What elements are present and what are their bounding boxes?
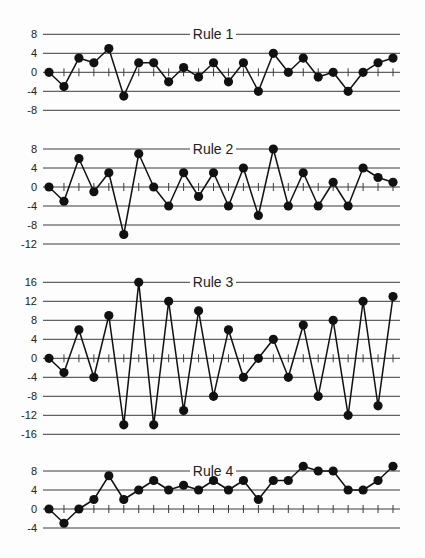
data-point bbox=[179, 63, 188, 72]
y-tick-label: -4 bbox=[27, 85, 37, 97]
y-tick-label: -8 bbox=[27, 104, 37, 116]
data-point bbox=[284, 68, 293, 77]
data-point bbox=[74, 53, 83, 62]
data-point bbox=[119, 91, 128, 100]
data-point bbox=[329, 316, 338, 325]
data-point bbox=[344, 87, 353, 96]
data-point bbox=[299, 320, 308, 329]
data-point bbox=[314, 466, 323, 475]
y-tick-label: 8 bbox=[31, 465, 37, 477]
data-point bbox=[149, 58, 158, 67]
data-point bbox=[44, 182, 53, 191]
data-point bbox=[59, 519, 68, 528]
data-point bbox=[44, 354, 53, 363]
y-tick-label: 4 bbox=[31, 162, 37, 174]
data-point bbox=[299, 53, 308, 62]
data-point bbox=[59, 197, 68, 206]
data-point bbox=[344, 411, 353, 420]
data-point bbox=[329, 178, 338, 187]
data-point bbox=[119, 495, 128, 504]
y-tick-label: 16 bbox=[25, 276, 37, 288]
data-point bbox=[314, 72, 323, 81]
data-point bbox=[314, 392, 323, 401]
data-point bbox=[134, 149, 143, 158]
data-point bbox=[89, 373, 98, 382]
data-point bbox=[164, 201, 173, 210]
y-tick-label: 8 bbox=[31, 314, 37, 326]
data-point bbox=[388, 53, 397, 62]
data-point bbox=[269, 144, 278, 153]
data-point bbox=[44, 504, 53, 513]
data-point bbox=[284, 476, 293, 485]
data-point bbox=[89, 495, 98, 504]
y-tick-label: 4 bbox=[31, 484, 37, 496]
y-tick-label: 0 bbox=[31, 503, 37, 515]
data-point bbox=[299, 462, 308, 471]
y-tick-label: 8 bbox=[31, 28, 37, 40]
chart-title: Rule 1 bbox=[193, 26, 234, 42]
data-point bbox=[254, 495, 263, 504]
data-point bbox=[358, 485, 367, 494]
y-tick-label: -4 bbox=[27, 522, 37, 534]
chart-rule-3: 1612840-4-8-12-16Rule 3 bbox=[21, 274, 400, 440]
data-point bbox=[104, 44, 113, 53]
y-tick-label: 0 bbox=[31, 181, 37, 193]
data-point bbox=[358, 163, 367, 172]
y-tick-label: 4 bbox=[31, 333, 37, 345]
data-point bbox=[149, 182, 158, 191]
data-point bbox=[373, 173, 382, 182]
data-point bbox=[224, 485, 233, 494]
y-tick-label: -4 bbox=[27, 371, 37, 383]
chart-title: Rule 2 bbox=[193, 141, 234, 157]
data-point bbox=[74, 154, 83, 163]
data-point bbox=[209, 168, 218, 177]
y-tick-label: 0 bbox=[31, 66, 37, 78]
chart-rule-2: 840-4-8-12Rule 2 bbox=[21, 141, 400, 250]
data-point bbox=[284, 373, 293, 382]
data-point bbox=[254, 87, 263, 96]
data-point bbox=[194, 306, 203, 315]
data-point bbox=[119, 420, 128, 429]
data-point bbox=[179, 168, 188, 177]
data-point bbox=[373, 476, 382, 485]
data-point bbox=[254, 211, 263, 220]
chart-rule-1: 840-4-8Rule 1 bbox=[27, 26, 400, 116]
chart-title: Rule 3 bbox=[193, 274, 234, 290]
data-point bbox=[74, 325, 83, 334]
data-point bbox=[373, 58, 382, 67]
data-point bbox=[239, 58, 248, 67]
data-point bbox=[134, 58, 143, 67]
data-point bbox=[329, 68, 338, 77]
data-point bbox=[149, 476, 158, 485]
data-point bbox=[104, 471, 113, 480]
data-point bbox=[239, 163, 248, 172]
y-tick-label: 4 bbox=[31, 47, 37, 59]
data-point bbox=[358, 297, 367, 306]
data-point bbox=[344, 201, 353, 210]
data-point bbox=[344, 485, 353, 494]
data-point bbox=[164, 485, 173, 494]
data-point bbox=[224, 325, 233, 334]
data-point bbox=[194, 192, 203, 201]
data-point bbox=[269, 49, 278, 58]
data-point bbox=[224, 201, 233, 210]
data-point bbox=[329, 466, 338, 475]
data-point bbox=[134, 485, 143, 494]
data-point bbox=[209, 392, 218, 401]
chart-rule-4: 840-4Rule 4 bbox=[27, 462, 400, 534]
data-point bbox=[59, 82, 68, 91]
data-point bbox=[209, 58, 218, 67]
data-point bbox=[269, 476, 278, 485]
data-point bbox=[224, 77, 233, 86]
data-point bbox=[74, 504, 83, 513]
data-point bbox=[388, 178, 397, 187]
data-point bbox=[284, 201, 293, 210]
data-point bbox=[358, 68, 367, 77]
data-point bbox=[134, 278, 143, 287]
y-tick-label: -12 bbox=[21, 238, 37, 250]
y-tick-label: -4 bbox=[27, 200, 37, 212]
data-point bbox=[388, 292, 397, 301]
data-point bbox=[373, 401, 382, 410]
data-point bbox=[194, 485, 203, 494]
rule-charts: 840-4-8Rule 1 840-4-8-12Rule 2 1612840-4… bbox=[0, 0, 425, 558]
